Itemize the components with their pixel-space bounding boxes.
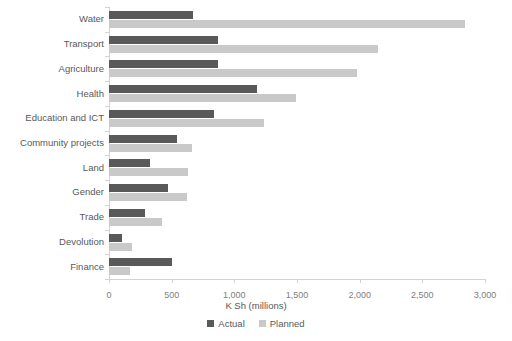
bar-planned [109, 267, 130, 275]
category-label: Community projects [0, 137, 104, 148]
legend-label: Actual [218, 318, 244, 329]
category-label: Trade [0, 211, 104, 222]
category-label: Education and ICT [0, 112, 104, 123]
x-tick-label: 3,000 [474, 290, 497, 300]
bar-planned [109, 69, 357, 77]
y-tick [105, 230, 109, 231]
category-label: Agriculture [0, 63, 104, 74]
bar-group [109, 35, 485, 56]
bar-actual [109, 135, 177, 143]
bar-actual [109, 184, 168, 192]
x-tick [297, 279, 298, 283]
y-tick [105, 7, 109, 8]
x-tick [109, 279, 110, 283]
x-tick [360, 279, 361, 283]
x-tick-label: 1,500 [286, 290, 309, 300]
x-tick [485, 279, 486, 283]
y-tick [105, 279, 109, 280]
bar-group [109, 233, 485, 254]
bar-planned [109, 218, 162, 226]
bar-chart: WaterTransportAgricultureHealthEducation… [0, 0, 512, 341]
bar-actual [109, 159, 150, 167]
y-tick [105, 155, 109, 156]
category-label: Finance [0, 261, 104, 272]
bar-actual [109, 36, 218, 44]
category-label: Health [0, 88, 104, 99]
bar-group [109, 109, 485, 130]
bar-group [109, 134, 485, 155]
legend-swatch-icon [207, 320, 214, 327]
x-tick-label: 1,000 [223, 290, 246, 300]
x-tick-label: 2,000 [348, 290, 371, 300]
bar-planned [109, 20, 465, 28]
bar-group [109, 208, 485, 229]
y-tick [105, 205, 109, 206]
y-tick [105, 131, 109, 132]
bar-planned [109, 168, 188, 176]
bar-group [109, 183, 485, 204]
bar-actual [109, 60, 218, 68]
x-tick [422, 279, 423, 283]
x-tick [172, 279, 173, 283]
bar-planned [109, 45, 378, 53]
legend-swatch-icon [259, 320, 266, 327]
bar-group [109, 84, 485, 105]
y-tick [105, 81, 109, 82]
x-axis-title: K Sh (millions) [0, 300, 512, 311]
y-tick [105, 32, 109, 33]
bar-group [109, 10, 485, 31]
plot-area: 05001,0001,5002,0002,5003,000 [109, 7, 485, 279]
bar-planned [109, 193, 187, 201]
y-tick [105, 180, 109, 181]
legend-item[interactable]: Planned [259, 318, 305, 329]
bar-actual [109, 85, 257, 93]
x-tick [234, 279, 235, 283]
y-tick [105, 56, 109, 57]
x-tick-label: 0 [106, 290, 111, 300]
bar-planned [109, 94, 296, 102]
legend-item[interactable]: Actual [207, 318, 244, 329]
bar-actual [109, 234, 122, 242]
y-tick [105, 106, 109, 107]
category-label: Water [0, 13, 104, 24]
legend-label: Planned [270, 318, 305, 329]
x-tick-label: 2,500 [411, 290, 434, 300]
bar-planned [109, 243, 132, 251]
category-label: Devolution [0, 236, 104, 247]
bar-actual [109, 209, 145, 217]
bar-actual [109, 258, 172, 266]
bar-actual [109, 11, 193, 19]
bar-planned [109, 119, 264, 127]
x-tick-label: 500 [164, 290, 179, 300]
chart-legend: ActualPlanned [0, 318, 512, 329]
bar-group [109, 257, 485, 278]
bar-group [109, 158, 485, 179]
category-label: Transport [0, 38, 104, 49]
category-label: Land [0, 162, 104, 173]
bar-actual [109, 110, 214, 118]
y-tick [105, 254, 109, 255]
category-label: Gender [0, 186, 104, 197]
bar-planned [109, 144, 192, 152]
bar-group [109, 59, 485, 80]
